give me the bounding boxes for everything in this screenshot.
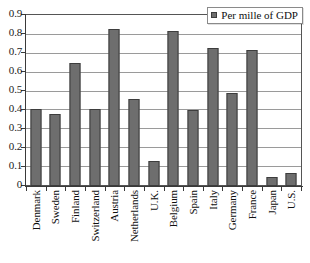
bar-slot bbox=[222, 15, 242, 186]
x-axis-tick-label: Italy bbox=[207, 190, 218, 210]
x-axis-tick-label: Denmark bbox=[30, 190, 41, 230]
x-axis-tick-label: France bbox=[246, 190, 257, 219]
bar[interactable] bbox=[50, 114, 61, 186]
x-label-slot: Sweden bbox=[46, 190, 66, 263]
x-label-slot: Finland bbox=[65, 190, 85, 263]
bar[interactable] bbox=[246, 50, 257, 186]
x-label-slot: Switzerland bbox=[85, 190, 105, 263]
bar[interactable] bbox=[187, 110, 198, 186]
bar-slot bbox=[262, 15, 282, 186]
y-axis-tick-label: 0.2 bbox=[0, 141, 22, 152]
bar-slot bbox=[26, 15, 46, 186]
x-label-slot: France bbox=[242, 190, 262, 263]
x-axis-tick-label: Belgium bbox=[168, 190, 179, 227]
y-axis-tick-label: 0.3 bbox=[0, 122, 22, 133]
x-label-slot: Italy bbox=[203, 190, 223, 263]
y-axis-tick-label: 0.5 bbox=[0, 84, 22, 95]
bar-slot bbox=[242, 15, 262, 186]
y-axis-tick-label: 0.6 bbox=[0, 65, 22, 76]
y-axis-tick-label: 0.9 bbox=[0, 8, 22, 19]
bar[interactable] bbox=[30, 109, 41, 186]
bar[interactable] bbox=[168, 31, 179, 186]
x-label-slot: Austria bbox=[105, 190, 125, 263]
x-label-slot: Denmark bbox=[26, 190, 46, 263]
x-axis-tick-label: Germany bbox=[227, 190, 238, 230]
y-axis-tick-label: 0 bbox=[0, 179, 22, 190]
legend: Per mille of GDP bbox=[207, 7, 303, 24]
x-label-slot: Belgium bbox=[164, 190, 184, 263]
bar-chart: 0.90.80.70.60.50.40.30.20.10 DenmarkSwed… bbox=[0, 0, 310, 263]
bar-series bbox=[26, 15, 301, 186]
square-marker-icon bbox=[211, 12, 217, 18]
x-axis-tick-label: Switzerland bbox=[89, 190, 100, 241]
bar-slot bbox=[183, 15, 203, 186]
x-label-slot: U.K. bbox=[144, 190, 164, 263]
bar[interactable] bbox=[207, 48, 218, 186]
bar[interactable] bbox=[129, 99, 140, 186]
bar-slot bbox=[46, 15, 66, 186]
x-axis-tick-label: U.K. bbox=[148, 190, 159, 211]
x-axis-tick-label: Finland bbox=[70, 190, 81, 223]
bar[interactable] bbox=[89, 109, 100, 186]
x-axis-tick-label: U.S. bbox=[286, 190, 297, 209]
x-axis-labels: DenmarkSwedenFinlandSwitzerlandAustriaNe… bbox=[26, 190, 301, 263]
x-axis-tick-label: Sweden bbox=[50, 190, 61, 224]
x-label-slot: Japan bbox=[262, 190, 282, 263]
bar[interactable] bbox=[286, 173, 297, 186]
x-label-slot: Netherlands bbox=[124, 190, 144, 263]
bar[interactable] bbox=[70, 63, 81, 186]
x-label-slot: Spain bbox=[183, 190, 203, 263]
legend-label: Per mille of GDP bbox=[221, 9, 298, 21]
bar[interactable] bbox=[266, 177, 277, 186]
x-label-slot: U.S. bbox=[281, 190, 301, 263]
bar[interactable] bbox=[109, 29, 120, 186]
bar-slot bbox=[144, 15, 164, 186]
bar-slot bbox=[124, 15, 144, 186]
bar-slot bbox=[85, 15, 105, 186]
bar-slot bbox=[281, 15, 301, 186]
x-label-slot: Germany bbox=[222, 190, 242, 263]
bar-slot bbox=[164, 15, 184, 186]
bar[interactable] bbox=[148, 161, 159, 186]
y-axis-labels: 0.90.80.70.60.50.40.30.20.10 bbox=[0, 0, 22, 263]
y-axis-tick-label: 0.1 bbox=[0, 160, 22, 171]
x-axis-tick-label: Japan bbox=[266, 190, 277, 215]
x-axis-tick-label: Netherlands bbox=[129, 190, 140, 242]
y-axis-tick-label: 0.8 bbox=[0, 27, 22, 38]
bar-slot bbox=[65, 15, 85, 186]
bar-slot bbox=[203, 15, 223, 186]
x-axis-tick-label: Spain bbox=[187, 190, 198, 215]
y-axis-tick-label: 0.7 bbox=[0, 46, 22, 57]
y-axis-tick-label: 0.4 bbox=[0, 103, 22, 114]
bar[interactable] bbox=[227, 93, 238, 186]
x-axis-tick-label: Austria bbox=[109, 190, 120, 222]
x-axis-tick bbox=[301, 187, 302, 191]
bar-slot bbox=[105, 15, 125, 186]
